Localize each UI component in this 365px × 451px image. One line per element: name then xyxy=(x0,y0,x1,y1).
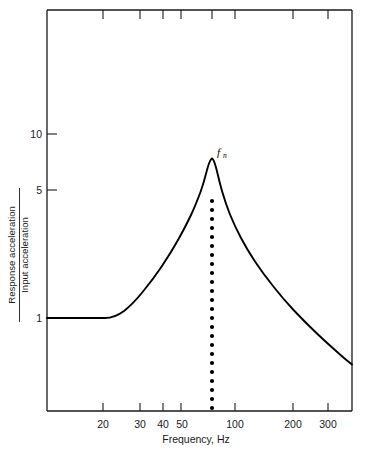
chart-background xyxy=(0,0,365,451)
fn-label-subscript: n xyxy=(223,151,227,160)
x-tick-label-50: 50 xyxy=(176,418,188,430)
response-frequency-chart: 20 30 40 50 100 200 300 1 5 10 Frequency… xyxy=(0,0,365,451)
x-tick-label-40: 40 xyxy=(157,418,169,430)
y-axis-title-denominator: Input acceleration xyxy=(19,217,30,293)
x-tick-label-200: 200 xyxy=(284,418,302,430)
x-tick-label-100: 100 xyxy=(226,418,244,430)
x-tick-label-30: 30 xyxy=(134,418,146,430)
x-axis-title: Frequency, Hz xyxy=(162,433,230,445)
y-tick-label-10: 10 xyxy=(30,128,42,140)
chart-figure: 20 30 40 50 100 200 300 1 5 10 Frequency… xyxy=(0,0,365,451)
y-tick-label-1: 1 xyxy=(36,312,42,324)
x-tick-label-20: 20 xyxy=(97,418,109,430)
y-tick-label-5: 5 xyxy=(36,184,42,196)
y-axis-title-numerator: Response acceleration xyxy=(6,206,17,304)
x-tick-label-300: 300 xyxy=(319,418,337,430)
